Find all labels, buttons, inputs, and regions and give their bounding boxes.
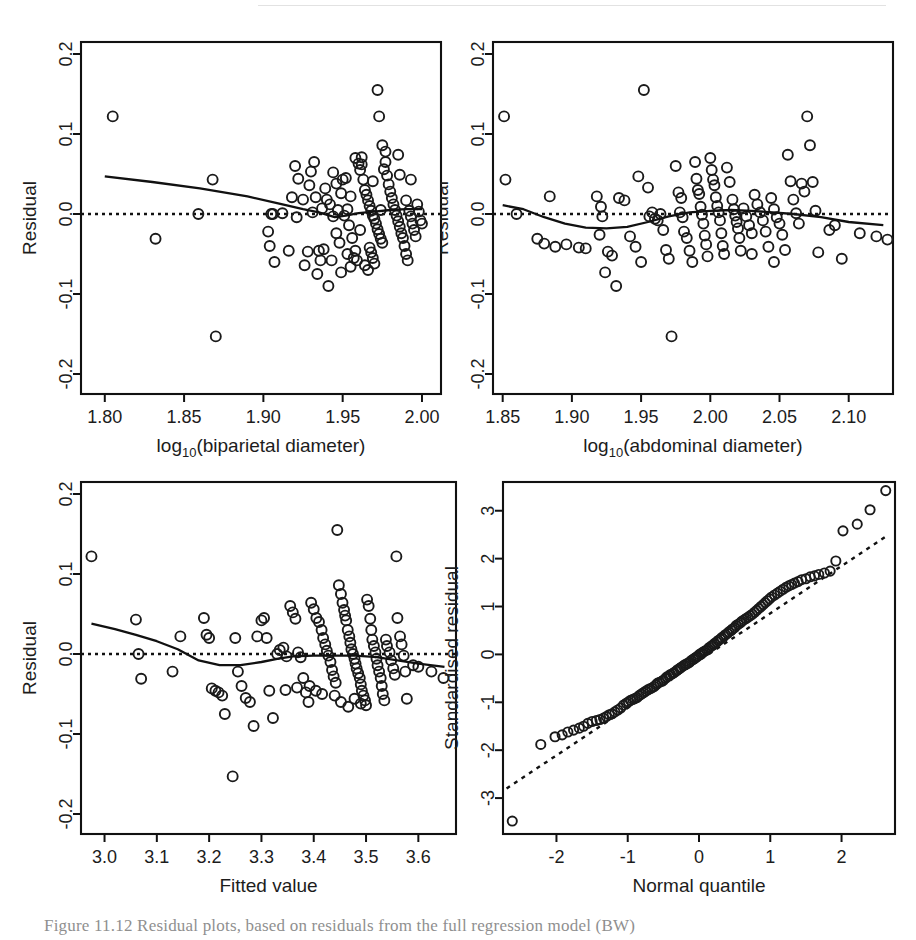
data-point (682, 233, 692, 243)
data-point (290, 614, 300, 624)
x-tick-label: 2.00 (693, 407, 728, 427)
data-point (625, 231, 635, 241)
data-point (355, 225, 365, 235)
data-point (775, 219, 785, 229)
data-point (373, 85, 383, 95)
data-point (820, 568, 829, 577)
data-point (734, 233, 744, 243)
data-point (417, 219, 427, 229)
data-point (401, 195, 411, 205)
x-tick-label: 1.85 (167, 407, 202, 427)
data-point (304, 180, 314, 190)
data-point (259, 613, 269, 623)
data-point (882, 235, 892, 245)
data-point (320, 183, 330, 193)
data-point (853, 520, 862, 529)
y-tick-label: 1 (478, 602, 498, 612)
data-point (237, 681, 247, 691)
x-tick-label: 3.5 (354, 847, 379, 867)
data-point (788, 195, 798, 205)
data-point (379, 695, 389, 705)
data-point (865, 505, 874, 514)
x-axis-title: Fitted value (219, 875, 317, 896)
x-tick-label: 1.95 (325, 407, 360, 427)
data-point (131, 615, 141, 625)
data-point (808, 177, 818, 187)
data-point (346, 262, 356, 272)
data-point (358, 175, 368, 185)
data-point (220, 709, 230, 719)
data-point (168, 667, 178, 677)
data-point (262, 633, 272, 643)
panel-qq: -2-1012-3-2-10123Standardised residualNo… (440, 460, 916, 910)
x-tick-label: 2.00 (404, 407, 439, 427)
data-point (690, 157, 700, 167)
plot-frame (493, 42, 893, 394)
x-tick-label: 1.80 (87, 407, 122, 427)
data-point (136, 674, 146, 684)
lowess-smoother (503, 205, 884, 228)
x-tick-label: -2 (548, 847, 564, 867)
data-point (331, 678, 341, 688)
x-axis-title: log10(abdominal diameter) (583, 435, 802, 460)
data-point (211, 331, 221, 341)
data-point (703, 251, 713, 261)
data-point (287, 192, 297, 202)
data-point (747, 249, 757, 259)
data-point (331, 228, 341, 238)
data-point (264, 686, 274, 696)
y-tick-label: 0.1 (56, 121, 76, 146)
data-point (633, 171, 643, 181)
data-point (569, 725, 578, 734)
data-point (366, 625, 376, 635)
data-point (707, 165, 717, 175)
data-point (288, 607, 298, 617)
x-tick-label: 3.4 (301, 847, 326, 867)
data-point (312, 269, 322, 279)
x-tick-label: 1 (765, 847, 775, 867)
y-tick-label: -0.2 (56, 798, 76, 829)
data-point (323, 281, 333, 291)
x-tick-label: 1.90 (246, 407, 281, 427)
data-point (411, 231, 421, 241)
data-point (705, 153, 715, 163)
data-point (597, 211, 607, 221)
x-tick-label: 3.6 (406, 847, 431, 867)
data-point (265, 241, 275, 251)
data-point (346, 191, 356, 201)
data-points (508, 486, 891, 826)
data-point (252, 631, 262, 641)
y-axis-title: Residual (19, 621, 40, 695)
data-point (208, 175, 218, 185)
data-points (108, 85, 427, 341)
y-tick-label: -0.1 (468, 278, 488, 309)
data-point (281, 685, 291, 695)
data-point (794, 219, 804, 229)
data-point (256, 615, 266, 625)
panel-qq-svg: -2-1012-3-2-10123Standardised residualNo… (440, 460, 916, 910)
data-point (761, 227, 771, 237)
data-point (667, 331, 677, 341)
data-point (763, 242, 773, 252)
data-point (382, 641, 392, 651)
x-tick-label: 2.10 (831, 407, 866, 427)
x-tick-label: 0 (694, 847, 704, 867)
x-tick-label: 2 (837, 847, 847, 867)
y-tick-label: 0.2 (468, 41, 488, 66)
y-tick-label: 0 (478, 649, 498, 659)
data-point (722, 163, 732, 173)
data-point (344, 220, 354, 230)
data-point (249, 721, 259, 731)
data-point (658, 225, 668, 235)
data-point (233, 667, 243, 677)
data-point (687, 257, 697, 267)
x-tick-label: 3.1 (144, 847, 169, 867)
data-point (802, 111, 812, 121)
data-point (303, 247, 313, 257)
y-tick-label: 0.0 (56, 201, 76, 226)
figure-caption: Figure 11.12 Residual plots, based on re… (44, 916, 874, 940)
y-tick-label: 0.2 (56, 481, 76, 506)
data-point (86, 551, 96, 561)
data-point (403, 255, 413, 265)
data-point (592, 191, 602, 201)
